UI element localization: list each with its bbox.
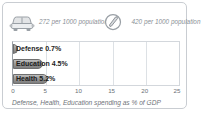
x-axis: 0 5 10 15 20 25 xyxy=(12,87,180,97)
x-tick-20: 20 xyxy=(141,87,148,95)
x-tick-5: 5 xyxy=(43,87,46,95)
bar-label-education: Education 4.5% xyxy=(16,59,68,69)
bar-row-health: Health 5.2% xyxy=(13,72,179,87)
telephone-icon xyxy=(102,11,128,33)
stat-cars: 272 per 1000 population xyxy=(3,6,96,38)
bar-row-education: Education 4.5% xyxy=(13,57,179,72)
x-tick-25: 25 xyxy=(174,87,181,95)
bar-chart-plot: Defense 0.7% Education 4.5% Health 5.2% xyxy=(12,41,180,86)
x-tick-0: 0 xyxy=(11,87,14,95)
stat-card: 272 per 1000 population 420 per 1000 pop… xyxy=(2,2,187,109)
x-tick-10: 10 xyxy=(75,87,82,95)
stat-telephones-text: 420 per 1000 population xyxy=(132,18,194,26)
stat-telephones: 420 per 1000 population xyxy=(96,6,189,38)
bar-row-defense: Defense 0.7% xyxy=(13,42,179,57)
bar-label-health: Health 5.2% xyxy=(16,74,55,84)
car-icon xyxy=(9,11,35,33)
bar-label-defense: Defense 0.7% xyxy=(16,44,61,54)
chart-caption: Defense, Health, Education spending as %… xyxy=(12,98,184,107)
stats-row: 272 per 1000 population 420 per 1000 pop… xyxy=(3,6,188,38)
x-tick-15: 15 xyxy=(108,87,115,95)
